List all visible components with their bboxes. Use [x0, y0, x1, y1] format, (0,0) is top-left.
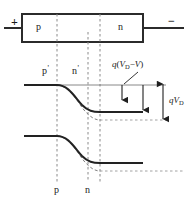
band-region-p-prime-letter: p — [42, 65, 47, 76]
upper-band-edge — [24, 85, 143, 112]
figure-canvas — [0, 0, 189, 206]
applied-bias-V1-subscript: D — [125, 63, 130, 70]
band-region-n-prime-mark: ' — [78, 64, 79, 73]
applied-bias-close-paren: ) — [140, 59, 143, 69]
band-region-n-prime-label: n' — [72, 66, 78, 76]
axis-region-p-label: p — [54, 185, 59, 195]
equilibrium-upper-band-curve — [57, 85, 100, 120]
device-region-n-label: n — [118, 22, 123, 32]
equilibrium-lower-band-curve — [57, 136, 100, 171]
left-terminal-sign: + — [11, 16, 18, 28]
reference-lines — [24, 85, 184, 171]
junction-guide-lines — [57, 14, 100, 182]
applied-bias-gap-label: q(VD−V) — [112, 60, 143, 69]
builtin-potential-label: qVD — [169, 96, 184, 105]
device-region-p-label: p — [36, 22, 41, 32]
applied-bias-leader-line — [124, 72, 138, 84]
lower-band-edge — [24, 136, 143, 163]
builtin-potential-V-subscript: D — [179, 99, 184, 106]
device-schematic — [4, 14, 184, 42]
pn-junction-band-diagram-figure: + − p n p' n' p n q(VD−V) qVD — [0, 0, 189, 206]
band-region-n-prime-letter: n — [72, 65, 77, 76]
axis-region-n-label: n — [85, 185, 90, 195]
right-terminal-sign: − — [168, 15, 175, 27]
band-region-p-prime-label: p' — [42, 66, 48, 76]
biased-band-edges — [24, 85, 143, 163]
band-region-p-prime-mark: ' — [48, 64, 49, 73]
equilibrium-band-curves — [57, 85, 100, 171]
